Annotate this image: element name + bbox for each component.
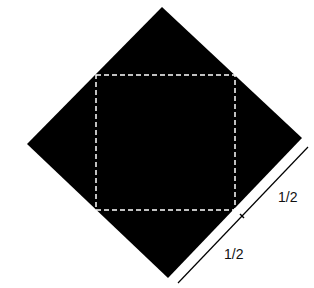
label-lower-half: 1/2 xyxy=(224,246,243,262)
label-upper-half: 1/2 xyxy=(278,189,297,205)
diagram-canvas xyxy=(0,0,314,288)
outer-diamond-square xyxy=(27,7,302,278)
